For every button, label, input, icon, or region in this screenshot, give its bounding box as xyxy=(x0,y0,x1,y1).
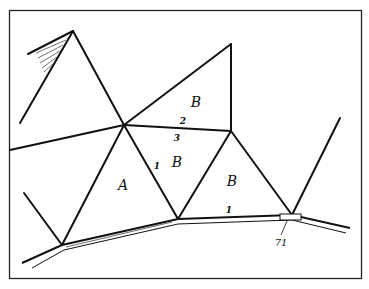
triangulation-diagram: A B B B 2 3 1 1 71 xyxy=(0,0,369,289)
region-label-a: A xyxy=(116,177,128,193)
road xyxy=(22,214,350,268)
edge-label-1-bottom: 1 xyxy=(226,205,232,215)
region-label-b-top: B xyxy=(190,94,201,110)
callout-leader xyxy=(281,221,287,235)
region-label-b-mid: B xyxy=(171,154,182,170)
edge-label-3: 3 xyxy=(174,133,180,143)
region-label-b-right: B xyxy=(226,173,237,189)
marker-71 xyxy=(280,214,301,220)
callout-label-71: 71 xyxy=(275,237,288,248)
edge-label-1-left: 1 xyxy=(154,161,160,171)
edge-label-2: 2 xyxy=(179,116,186,126)
